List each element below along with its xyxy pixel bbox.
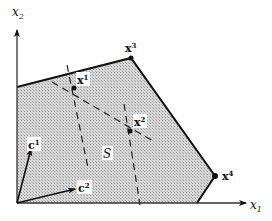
diagram-canvas: x1 x2 x3 x4 x1 x2 c1 c2 S bbox=[0, 0, 272, 221]
label-x4: x4 bbox=[222, 169, 234, 183]
point-x2 bbox=[128, 129, 133, 134]
x2-axis-label: x2 bbox=[12, 5, 24, 21]
region-label-s: S bbox=[103, 147, 111, 161]
point-x1 bbox=[72, 86, 77, 91]
vertex-x3 bbox=[129, 56, 134, 61]
x1-axis-label: x1 bbox=[250, 198, 262, 214]
label-x3: x3 bbox=[125, 41, 137, 55]
vertex-x4 bbox=[212, 173, 218, 179]
